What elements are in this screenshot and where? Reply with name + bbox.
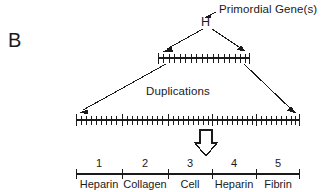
primordial-gene-label: Primordial Gene(s) xyxy=(219,4,317,16)
h-branch-arrow-right xyxy=(212,29,246,52)
segment-name-4: Heparin xyxy=(215,178,254,190)
h-gene-marker: H xyxy=(201,16,210,29)
segment-number-5: 5 xyxy=(275,157,281,169)
segment-number-4: 4 xyxy=(231,157,237,169)
figure-panel-b: B Primordial Gene(s) H Duplications 1 2 … xyxy=(0,0,334,192)
segment-number-3: 3 xyxy=(187,157,193,169)
duplication-arrow-right xyxy=(244,64,297,114)
second-duplication-bar xyxy=(76,114,300,126)
panel-letter: B xyxy=(8,30,22,50)
h-branch-arrow-left xyxy=(164,29,204,52)
hollow-down-arrow xyxy=(195,130,217,156)
segment-name-5: Fibrin xyxy=(264,178,292,190)
segment-number-2: 2 xyxy=(142,157,148,169)
segment-number-1: 1 xyxy=(96,157,102,169)
first-duplication-bar xyxy=(158,53,250,64)
duplications-label: Duplications xyxy=(146,86,210,98)
segment-name-3: Cell xyxy=(181,178,200,190)
segment-name-1: Heparin xyxy=(80,178,119,190)
segment-name-2: Collagen xyxy=(123,178,166,190)
